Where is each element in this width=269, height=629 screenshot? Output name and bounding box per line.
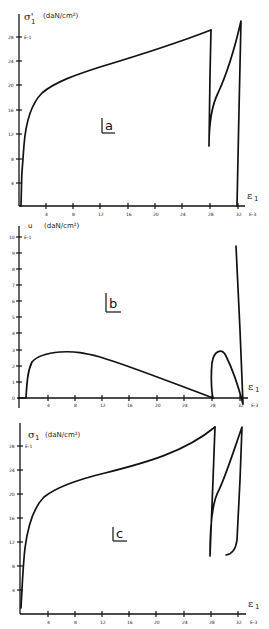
y-scale-note: E-1	[25, 444, 32, 449]
x-axis-title: ε 1	[247, 190, 258, 203]
y-tick-label: 28	[8, 35, 14, 40]
y-tick-label: 28	[9, 444, 15, 449]
y-tick-label: 16	[8, 108, 14, 113]
y-axis-symbol: σ	[28, 429, 35, 440]
x-tick-label: 20	[153, 212, 159, 217]
x-tick-label: 12	[100, 403, 106, 408]
panel-a: 28 24 20 16 12 8 4 E-1 4 8 12 16 20 24 2	[8, 11, 258, 217]
y-tick-label: 1	[12, 380, 15, 385]
y-tick-label: 6	[12, 299, 15, 304]
panel-letter: b	[109, 296, 117, 311]
y-tick-label: 9	[12, 251, 15, 256]
x-axis-symbol: ε	[248, 598, 253, 609]
y-axis-unit: (daN/cm²)	[43, 12, 79, 20]
x-tick-label: 20	[154, 620, 160, 625]
x-tick-label: 4	[47, 403, 50, 408]
x-scale-note: E-3	[251, 403, 258, 408]
x-axis-title: ε 1	[248, 598, 259, 611]
y-tick-label: 20	[9, 492, 15, 497]
panel-c: 28 24 20 16 12 8 4 E-1 4 8 12 16 20 24 2	[9, 423, 259, 625]
y-axis-title: σ 1 (daN/cm²)	[28, 429, 81, 442]
x-tick-label: 28	[209, 620, 215, 625]
y-tick-label: 4	[11, 181, 14, 186]
panel-letter: c	[116, 526, 123, 541]
x-tick-label: 24	[180, 212, 186, 217]
x-tick-label: 16	[127, 620, 133, 625]
x-tick-label: 32	[236, 620, 242, 625]
x-tick-label: 16	[126, 212, 132, 217]
x-tick-label: 8	[74, 403, 77, 408]
x-tick-label: 4	[47, 620, 50, 625]
y-tick-label: 8	[12, 267, 15, 272]
y-axis-unit: (daN/cm²)	[44, 222, 80, 230]
x-tick-label: 28	[210, 403, 216, 408]
y-tick-label: 24	[9, 468, 15, 473]
y-tick-label: 7	[12, 283, 15, 288]
y-tick-label: 5	[12, 315, 15, 320]
y-tick-label: 12	[9, 540, 15, 545]
x-tick-label: 12	[100, 620, 106, 625]
y-tick-label: 0	[12, 396, 15, 401]
y-tick-label: 12	[8, 132, 14, 137]
y-tick-label: 24	[8, 59, 14, 64]
y-axis-symbol: u	[28, 222, 32, 230]
x-tick-label: 32	[236, 212, 242, 217]
x-axis-symbol: ε	[247, 190, 252, 201]
y-axis-unit: (daN/cm²)	[45, 431, 81, 439]
y-tick-label: 16	[9, 516, 15, 521]
curve-unload-reload	[210, 427, 242, 556]
x-scale-note: E-3	[250, 620, 257, 625]
y-tick-label: 10	[9, 235, 15, 240]
x-tick-label: 12	[98, 212, 104, 217]
x-axis-symbol: ε	[248, 381, 253, 392]
curve-loop	[211, 246, 243, 404]
x-tick-label: 4	[45, 212, 48, 217]
y-tick-label: 8	[11, 157, 14, 162]
x-tick-label: 20	[155, 403, 161, 408]
panel-letter: a	[105, 118, 113, 133]
panel-b: 10 9 8 7 6 5 4 3 2 1 0 E-1 4 8 12	[9, 222, 259, 408]
x-tick-label: 8	[74, 620, 77, 625]
x-scale-note: E-3	[249, 212, 256, 217]
y-axis-subscript: 1	[31, 18, 35, 26]
curve-loading	[21, 427, 215, 608]
y-scale-note: E-1	[24, 235, 31, 240]
y-tick-label: 20	[8, 83, 14, 88]
panel-label-c: c	[113, 526, 127, 541]
x-tick-label: 24	[182, 403, 188, 408]
x-tick-labels: 4 8 12 16 20 24 28 32 E-3	[47, 620, 257, 625]
x-tick-labels: 4 8 12 16 20 24 28 32 E-3	[45, 212, 256, 217]
y-tick-label: 8	[12, 564, 15, 569]
x-tick-label: 28	[208, 212, 214, 217]
y-tick-label: 2	[12, 364, 15, 369]
x-axis-subscript: 1	[255, 603, 259, 611]
x-axis-subscript: 1	[255, 386, 259, 394]
x-tick-label: 24	[182, 620, 188, 625]
x-tick-label: 16	[127, 403, 133, 408]
x-axis-title: ε 1	[248, 381, 259, 394]
y-axis-title: σ' 1 (daN/cm²)	[24, 11, 79, 26]
figure: 28 24 20 16 12 8 4 E-1 4 8 12 16 20 24 2	[0, 0, 269, 629]
y-axis-subscript: 1	[35, 434, 39, 442]
y-scale-note: E-1	[24, 35, 31, 40]
x-tick-label: 8	[72, 212, 75, 217]
y-axis-title: u (daN/cm²)	[28, 222, 80, 230]
panel-label-a: a	[102, 118, 115, 133]
y-tick-label: 3	[12, 348, 15, 353]
x-axis-subscript: 1	[254, 195, 258, 203]
y-tick-label: 4	[12, 588, 15, 593]
y-tick-label: 4	[12, 331, 15, 336]
x-tick-labels: 4 8 12 16 20 24 28 32 E-3	[47, 403, 258, 408]
curve-loading	[21, 30, 211, 206]
curve-unload-reload	[209, 21, 241, 206]
curve-pore-pressure	[19, 352, 213, 398]
panel-label-b: b	[106, 293, 121, 312]
